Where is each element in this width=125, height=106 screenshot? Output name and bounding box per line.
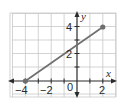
- x-tick-label-2: 2: [99, 84, 105, 96]
- y-axis-label: y: [80, 10, 86, 22]
- coordinate-plane: x y −4 −2 0 2 2 4: [0, 0, 125, 106]
- y-tick-label-4: 4: [66, 21, 72, 33]
- x-axis-left-arrow-icon: [8, 79, 14, 84]
- y-tick-label-2: 2: [66, 48, 72, 60]
- origin-label: 0: [67, 81, 73, 93]
- x-tick-label-neg2: −2: [40, 84, 53, 96]
- x-tick-label-neg4: −4: [15, 84, 28, 96]
- y-axis-up-arrow-icon: [75, 11, 80, 17]
- x-axis-label: x: [105, 67, 111, 79]
- endpoint-end: [100, 24, 105, 29]
- y-axis: [75, 11, 80, 98]
- endpoint-start: [23, 78, 28, 83]
